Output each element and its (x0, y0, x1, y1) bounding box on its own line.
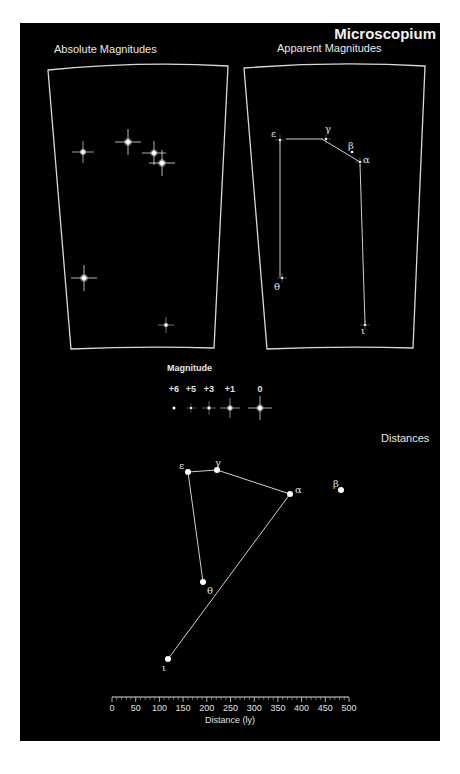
svg-text:450: 450 (318, 703, 333, 713)
alpha-label: α (363, 154, 370, 165)
svg-text:ε: ε (179, 460, 184, 471)
iota-label: ι (361, 325, 365, 336)
svg-text:ι: ι (162, 662, 166, 673)
svg-text:500: 500 (341, 703, 356, 713)
beta-label: β (348, 140, 354, 151)
svg-text:250: 250 (223, 703, 238, 713)
svg-text:θ: θ (207, 585, 213, 596)
svg-text:β: β (333, 478, 339, 489)
svg-text:300: 300 (247, 703, 262, 713)
svg-text:150: 150 (176, 703, 191, 713)
star-icon (71, 265, 97, 291)
svg-text:+5: +5 (186, 384, 196, 394)
epsilon-label: ε (271, 128, 276, 139)
star-icon (115, 129, 141, 155)
diagram-canvas: ε γ β α θ ι +6 +5 +3 +1 0 ε γ α β θ ι (0, 0, 460, 774)
star-icon (72, 141, 94, 163)
svg-text:100: 100 (152, 703, 167, 713)
magnitude-legend: +6 +5 +3 +1 0 (169, 384, 272, 420)
svg-text:200: 200 (199, 703, 214, 713)
svg-text:+6: +6 (169, 384, 179, 394)
svg-text:α: α (295, 484, 302, 495)
svg-text:γ: γ (215, 457, 221, 468)
theta-label: θ (274, 281, 280, 292)
distance-axis: 0 50 100 150 200 250 300 350 400 450 500… (109, 697, 356, 725)
gamma-label: γ (325, 123, 331, 134)
svg-text:50: 50 (131, 703, 141, 713)
svg-text:400: 400 (294, 703, 309, 713)
star-icon (158, 317, 174, 333)
distances-diagram: ε γ α β θ ι (162, 457, 344, 673)
svg-text:350: 350 (270, 703, 285, 713)
svg-text:+1: +1 (225, 384, 235, 394)
absolute-magnitudes-box (48, 64, 228, 349)
svg-text:+3: +3 (204, 384, 214, 394)
svg-text:0: 0 (257, 384, 262, 394)
svg-text:0: 0 (109, 703, 114, 713)
axis-label: Distance (ly) (205, 715, 255, 725)
apparent-magnitudes-box: ε γ β α θ ι (244, 64, 425, 349)
